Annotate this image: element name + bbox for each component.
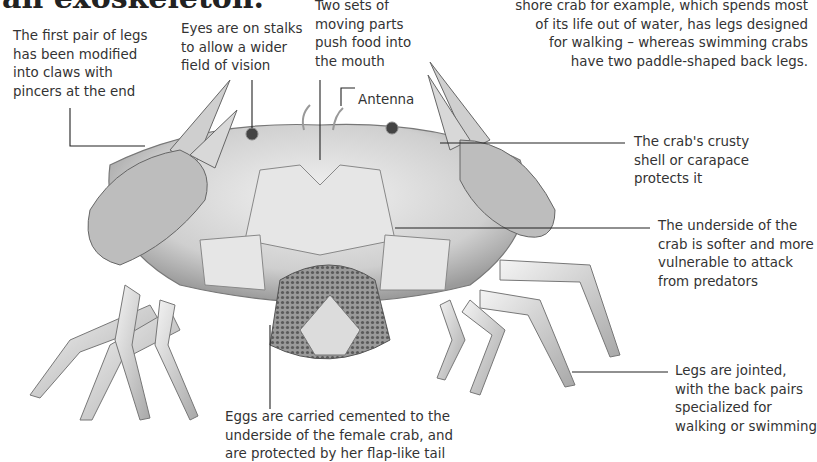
eye-left <box>246 128 258 140</box>
label-mouthparts: Two sets of moving parts push food into … <box>315 0 411 71</box>
label-legs: Legs are jointed, with the back pairs sp… <box>675 362 817 436</box>
label-antenna: Antenna <box>358 91 414 110</box>
legs-left <box>30 285 198 420</box>
label-eyes: Eyes are on stalks to allow a wider fiel… <box>181 20 303 76</box>
label-claws: The first pair of legs has been modified… <box>13 27 147 101</box>
label-shell: The crab's crusty shell or carapace prot… <box>634 133 749 189</box>
label-underside: The underside of the crab is softer and … <box>658 217 814 291</box>
label-eggs: Eggs are carried cemented to the undersi… <box>225 408 453 462</box>
eye-right <box>386 122 398 134</box>
